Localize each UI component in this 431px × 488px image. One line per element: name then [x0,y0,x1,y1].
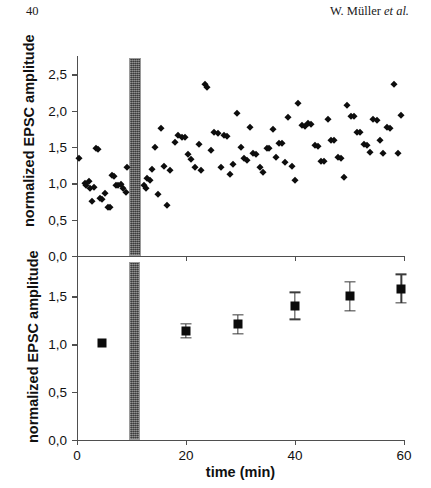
scatter-point [367,149,373,155]
scatter-point [88,198,94,204]
scatter-point [149,165,155,171]
mean-marker [397,284,406,293]
mean-marker [233,320,242,329]
y-tick-label: 1,5 [7,139,67,154]
plot-area-bottom: 1,51,00,50,00204060time (min) [77,258,404,440]
scatter-point [338,155,344,161]
scatter-point [122,189,128,195]
mean-marker [182,326,191,335]
y-axis-line [77,258,78,440]
y-tick-label: 1,0 [7,176,67,191]
scatter-point [195,141,201,147]
y-tick-label: 0,5 [7,212,67,227]
panel-bottom-mean: normalized EPSC amplitude 1,51,00,50,002… [0,248,431,488]
y-tick-label: 2,0 [7,103,67,118]
scatter-point [237,144,243,150]
error-bar-cap-top [396,274,407,275]
y-axis-label-top: normalized EPSC amplitude [21,37,37,227]
x-tick [186,440,187,445]
scatter-point [102,190,108,196]
scatter-point [152,144,158,150]
y-tick-label: 1,0 [7,337,67,352]
error-bar-cap-top [181,323,192,324]
x-tick-label: 40 [287,448,302,463]
plot-area-top: 2,52,01,51,00,50,0 [77,56,404,256]
y-tick-label: 2,5 [7,67,67,82]
error-bar-cap-top [232,314,243,315]
scatter-point [341,173,347,179]
error-bar-cap-bottom [344,310,355,311]
scatter-point [285,114,291,120]
scatter-point [164,202,170,208]
scatter-point [315,143,321,149]
y-tick [72,344,77,345]
scatter-point [364,141,370,147]
scatter-point [204,83,210,89]
y-tick-label: 1,5 [7,289,67,304]
scatter-point [233,109,239,115]
scatter-point [395,150,401,156]
scatter-point [380,149,386,155]
y-tick [72,296,77,297]
scatter-point [158,125,164,131]
x-tick-label: 20 [178,448,193,463]
scatter-point [198,167,204,173]
scatter-point [308,120,314,126]
scatter-point [155,191,161,197]
scatter-point [161,163,167,169]
scatter-point [391,81,397,87]
scatter-point [230,160,236,166]
scatter-point [374,117,380,123]
stimulation-bar [129,262,140,440]
scatter-point [76,155,82,161]
x-axis-line [77,440,404,441]
scatter-point [226,171,232,177]
x-axis-label: time (min) [206,464,275,480]
scatter-point [244,157,250,163]
x-tick [77,440,78,445]
error-bar-cap-top [290,292,301,293]
scatter-point [324,116,330,122]
scatter-point [331,137,337,143]
scatter-point [208,147,214,153]
scatter-point [95,146,101,152]
y-tick-label: 0,0 [7,433,67,448]
y-tick [72,220,77,221]
scatter-point [273,154,279,160]
error-bar-cap-bottom [396,302,407,303]
scatter-point [224,133,230,139]
scatter-point [247,123,253,129]
panel-top-scatter: normalized EPSC amplitude 2,52,01,51,00,… [0,40,431,245]
scatter-point [269,126,275,132]
scatter-point [253,151,259,157]
scatter-point [218,164,224,170]
scatter-point [357,129,363,135]
error-bar-cap-top [344,281,355,282]
x-tick [404,440,405,445]
y-tick [72,74,77,75]
stimulation-bar [129,58,141,256]
scatter-point [344,101,350,107]
x-tick-label: 60 [396,448,411,463]
error-bar-cap-bottom [290,319,301,320]
scatter-point [167,167,173,173]
scatter-point [188,156,194,162]
y-tick [72,147,77,148]
figure: normalized EPSC amplitude 2,52,01,51,00,… [0,0,431,488]
y-tick-label: 0,5 [7,385,67,400]
scatter-point [260,169,266,175]
y-tick [72,111,77,112]
scatter-point [182,134,188,140]
scatter-point [288,163,294,169]
error-bar-cap-bottom [232,333,243,334]
x-tick [295,440,296,445]
y-tick [72,392,77,393]
scatter-point [295,100,301,106]
error-bar-cap-bottom [181,337,192,338]
scatter-point [147,176,153,182]
scatter-point [321,158,327,164]
y-tick [72,183,77,184]
mean-marker [97,339,106,348]
scatter-point [282,159,288,165]
scatter-point [292,177,298,183]
